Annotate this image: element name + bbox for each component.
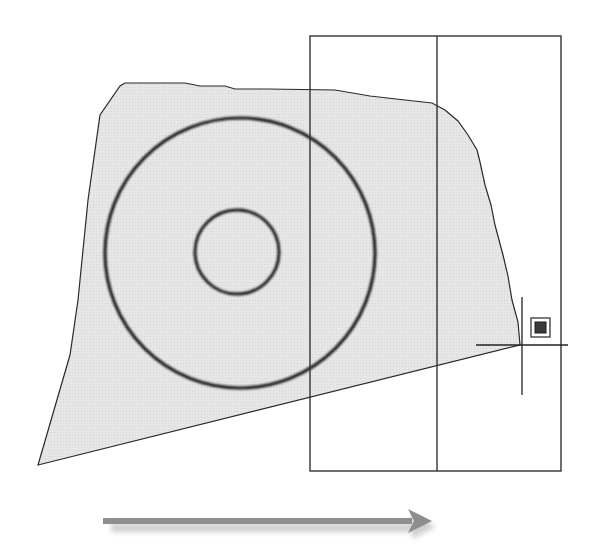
hatched-region[interactable] [38,83,520,465]
endpoint-snap-icon [531,318,550,337]
direction-arrow-icon [103,509,436,539]
cad-drawing-canvas[interactable] [0,0,597,556]
